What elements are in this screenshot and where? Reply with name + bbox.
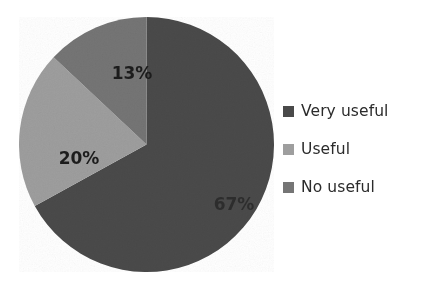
pie-label-no-useful: 13% xyxy=(112,63,153,83)
pie-slices xyxy=(19,17,274,272)
pie-chart-figure: 67% 20% 13% Very useful Useful No useful xyxy=(0,0,422,283)
legend-item-no-useful[interactable]: No useful xyxy=(283,168,419,206)
pie-chart-plot-area: 67% 20% 13% xyxy=(19,17,274,272)
pie-label-very-useful: 67% xyxy=(214,194,255,214)
chart-legend: Very useful Useful No useful xyxy=(283,92,419,206)
legend-item-very-useful[interactable]: Very useful xyxy=(283,92,419,130)
legend-item-useful[interactable]: Useful xyxy=(283,130,419,168)
pie-label-useful: 20% xyxy=(59,148,100,168)
legend-swatch-useful xyxy=(283,144,294,155)
legend-label-very-useful: Very useful xyxy=(301,102,389,120)
legend-label-no-useful: No useful xyxy=(301,178,375,196)
pie-chart-svg: 67% 20% 13% xyxy=(19,17,274,272)
legend-label-useful: Useful xyxy=(301,140,350,158)
legend-swatch-very-useful xyxy=(283,106,294,117)
legend-swatch-no-useful xyxy=(283,182,294,193)
